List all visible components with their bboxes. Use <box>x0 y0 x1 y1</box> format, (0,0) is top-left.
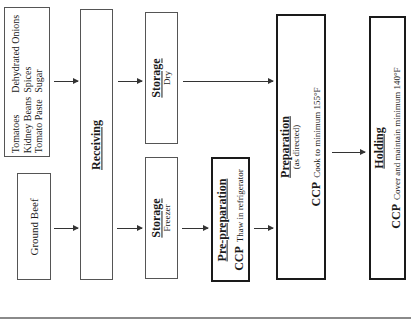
holding-box: Holding CCP Cover and maintain minimum 1… <box>369 16 406 280</box>
ingredient-dehydrated-onions: Dehydrated Onions <box>10 11 22 93</box>
storage-dry-title: Storage <box>150 58 163 97</box>
receiving-box: Receiving <box>80 9 113 280</box>
preparation-ccp: CCP <box>309 182 323 207</box>
storage-freezer-sub: Freezer <box>163 198 173 237</box>
preparation-note: Cook to minimum 155°F <box>312 87 322 177</box>
ingredient-kidney-beans: Kidney Beans <box>21 93 33 153</box>
arrow-preparation-to-holding <box>332 152 365 153</box>
holding-note: Cover and maintain minimum 140°F <box>391 67 401 200</box>
preparation-box: Preparation (as directed) CCP Cook to mi… <box>276 14 326 280</box>
arrow-pre-preparation-to-preparation <box>254 228 273 229</box>
arrow-receiving-to-storage-dry <box>118 81 142 82</box>
holding-ccp: CCP <box>388 204 402 229</box>
arrow-receiving-to-storage-freezer <box>117 228 142 229</box>
ingredient-tomato-paste: Tomato Paste <box>33 93 45 153</box>
ground-beef-box: Ground Beef <box>17 173 51 280</box>
pre-preparation-note: Thaw in refrigerator <box>234 169 244 242</box>
preparation-sub: (as directed) <box>292 87 302 206</box>
pre-preparation-title: Pre-preparation <box>215 169 228 271</box>
receiving-title: Receiving <box>90 120 103 170</box>
storage-dry-box: Storage Dry <box>145 12 178 144</box>
storage-freezer-title: Storage <box>150 198 163 237</box>
pre-preparation-ccp: CCP <box>231 246 245 271</box>
pre-preparation-box: Pre-preparation CCP Thaw in refrigerator <box>211 157 250 282</box>
ingredient-tomatoes: Tomatoes <box>10 93 22 153</box>
arrow-storage-dry-to-preparation <box>183 81 273 82</box>
ingredients-list: TomatoesDehydrated Onions Kidney BeansSp… <box>10 11 45 153</box>
holding-title: Holding <box>372 67 385 228</box>
page-edge-line <box>0 317 411 319</box>
arrow-ground-beef-to-receiving <box>54 228 78 229</box>
ground-beef-label: Ground Beef <box>28 198 40 255</box>
storage-freezer-box: Storage Freezer <box>145 157 178 279</box>
arrow-storage-freezer-to-pre-preparation <box>182 228 208 229</box>
ingredients-box: TomatoesDehydrated Onions Kidney BeansSp… <box>4 7 50 157</box>
ingredient-spices: Spices <box>21 11 33 93</box>
arrow-ingredients-to-receiving <box>54 81 78 82</box>
storage-dry-sub: Dry <box>163 58 173 97</box>
ingredient-sugar: Sugar <box>33 11 45 93</box>
